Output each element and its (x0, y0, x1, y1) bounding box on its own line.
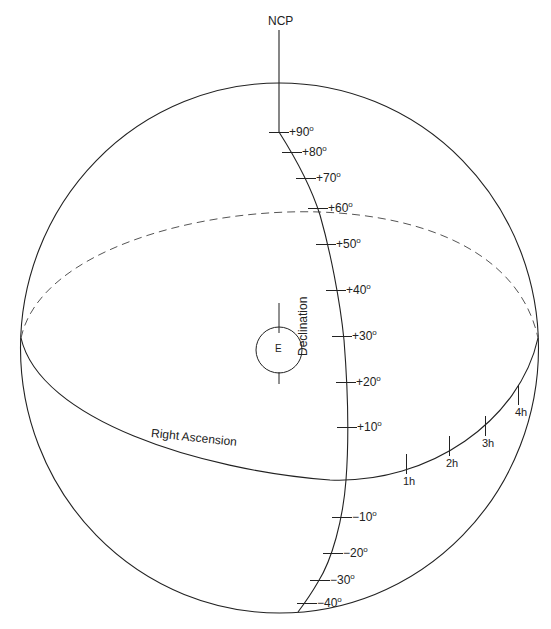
ra-tick-label: 2h (446, 457, 458, 469)
ra-tick (449, 436, 450, 456)
declination-tick-label: +70o (316, 170, 341, 185)
declination-tick (326, 290, 346, 291)
declination-tick-label: +50o (336, 236, 361, 251)
declination-tick (332, 517, 352, 518)
ra-tick (406, 454, 407, 474)
declination-tick (336, 382, 356, 383)
declination-tick (332, 336, 352, 337)
declination-tick-label: +60o (328, 200, 353, 215)
declination-tick (337, 427, 357, 428)
declination-tick (310, 580, 330, 581)
declination-tick-label: +10o (357, 419, 382, 434)
celestial-equator-front (21, 338, 538, 480)
ra-tick-label: 3h (482, 437, 494, 449)
declination-tick-label: −30o (330, 572, 355, 587)
declination-tick (297, 603, 317, 604)
declination-tick (316, 244, 336, 245)
declination-tick-label: −10o (352, 509, 377, 524)
declination-tick-label: +20o (356, 374, 381, 389)
declination-tick (296, 178, 316, 179)
declination-tick-label: +80o (302, 144, 327, 159)
declination-tick-label: −40o (317, 595, 342, 610)
declination-tick-label: +30o (352, 328, 377, 343)
declination-tick (269, 132, 289, 133)
declination-tick (323, 553, 343, 554)
declination-tick (282, 152, 302, 153)
declination-tick (308, 208, 328, 209)
declination-tick-label: +90o (289, 124, 314, 139)
declination-tick-label: +40o (346, 282, 371, 297)
ra-tick (518, 385, 519, 405)
ra-tick (485, 416, 486, 436)
ra-tick-label: 1h (403, 475, 415, 487)
ra-tick-label: 4h (515, 406, 527, 418)
declination-tick-label: −20o (343, 545, 368, 560)
earth-label: E (275, 343, 282, 354)
ncp-label: NCP (268, 14, 293, 28)
declination-axis-label: Declination (296, 297, 310, 356)
celestial-sphere-diagram: NCP E Declination Right Ascension +90o+8… (0, 0, 551, 629)
